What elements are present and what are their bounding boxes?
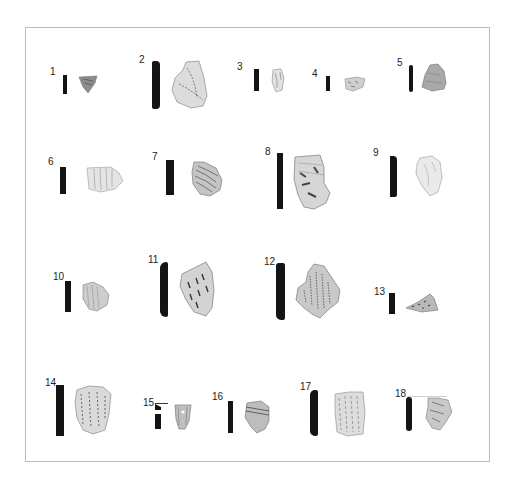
item-number: 6: [48, 157, 54, 167]
sherd-fragment: [190, 160, 224, 198]
profile-section: [310, 390, 318, 436]
sherd-fragment: [294, 262, 344, 320]
profile-section: [65, 281, 71, 312]
sherd-fragment: [420, 63, 448, 93]
profile-section: [276, 263, 285, 320]
profile-section: [166, 160, 174, 195]
profile-section: [326, 76, 330, 91]
profile-section: [406, 397, 412, 431]
item-number: 5: [397, 58, 403, 68]
item-number: 17: [300, 382, 311, 392]
item-number: 15: [143, 398, 154, 408]
sherd-fragment: [414, 154, 444, 198]
item-number: 16: [212, 392, 223, 402]
profile-section: [409, 65, 413, 92]
sherd-fragment: [169, 60, 209, 110]
sherd-fragment: [77, 73, 99, 95]
profile-section: [277, 153, 283, 209]
sherd-fragment: [243, 399, 271, 435]
item-number: 7: [152, 152, 158, 162]
profile-section: [152, 61, 160, 109]
item-number: 10: [53, 272, 64, 282]
sherd-fragment: [333, 390, 367, 438]
sherd-fragment: [178, 260, 220, 318]
item-number: 8: [265, 147, 271, 157]
sherd-fragment: [73, 384, 113, 436]
item-number: 4: [312, 69, 318, 79]
item-number: 11: [148, 255, 158, 265]
item-number: 13: [374, 287, 385, 297]
item-number: 18: [395, 389, 406, 399]
profile-section: [155, 414, 161, 429]
profile-section: [63, 75, 67, 94]
sherd-fragment: [343, 75, 367, 93]
profile-section: [160, 262, 168, 317]
profile-section: [389, 293, 395, 314]
item-number: 12: [264, 257, 275, 267]
profile-section: [390, 156, 397, 197]
rim-line: [155, 403, 168, 404]
item-number: 1: [50, 67, 56, 77]
sherd-fragment: [85, 165, 125, 195]
sherd-fragment: [404, 292, 440, 314]
profile-section: [228, 401, 233, 433]
item-number: 2: [139, 55, 145, 65]
item-number: 3: [237, 62, 243, 72]
item-number: 9: [373, 148, 379, 158]
profile-section: [254, 69, 259, 91]
sherd-fragment: [173, 403, 193, 431]
item-number: 14: [45, 378, 56, 388]
sherd-fragment: [292, 153, 334, 211]
profile-section: [60, 167, 66, 194]
sherd-fragment: [270, 68, 286, 94]
profile-section: [56, 385, 64, 436]
sherd-fragment: [81, 281, 111, 313]
sherd-fragment: [424, 396, 454, 434]
